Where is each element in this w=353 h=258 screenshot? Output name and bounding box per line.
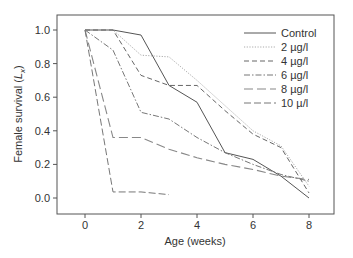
y-axis-label: Female survival (Lx) bbox=[12, 65, 27, 163]
survival-chart: 0.00.20.40.60.81.0 02468 Control2 µg/l4 … bbox=[0, 0, 353, 258]
y-tick-label: 0.0 bbox=[35, 192, 50, 204]
x-axis-label: Age (weeks) bbox=[164, 235, 225, 247]
legend-label: 6 µg/l bbox=[281, 69, 308, 81]
x-tick-label: 0 bbox=[82, 219, 88, 231]
legend-label: 2 µg/l bbox=[281, 41, 308, 53]
x-tick-label: 6 bbox=[250, 219, 256, 231]
x-tick-label: 2 bbox=[138, 219, 144, 231]
legend-label: Control bbox=[281, 27, 316, 39]
y-tick-label: 0.2 bbox=[35, 158, 50, 170]
legend-label: 8 µg/l bbox=[281, 83, 308, 95]
x-tick-label: 8 bbox=[306, 219, 312, 231]
x-tick-label: 4 bbox=[194, 219, 200, 231]
y-tick-label: 1.0 bbox=[35, 24, 50, 36]
series-line bbox=[85, 30, 169, 195]
legend-label: 4 µg/l bbox=[281, 55, 308, 67]
y-axis: 0.00.20.40.60.81.0 bbox=[35, 24, 57, 204]
y-tick-label: 0.8 bbox=[35, 58, 50, 70]
legend-label: 10 µ/l bbox=[281, 97, 308, 109]
x-axis: 02468 bbox=[82, 214, 312, 231]
y-tick-label: 0.6 bbox=[35, 91, 50, 103]
y-tick-label: 0.4 bbox=[35, 125, 50, 137]
